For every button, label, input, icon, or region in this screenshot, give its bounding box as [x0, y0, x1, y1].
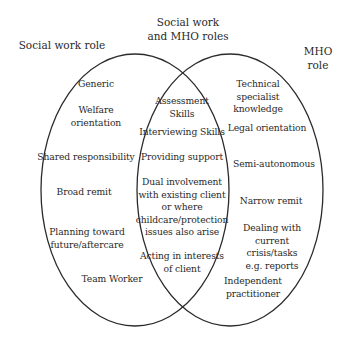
heading-overlap-roles: Social work and MHO roles	[147, 15, 228, 43]
heading-social-work-role: Social work role	[19, 38, 106, 52]
overlap-item-providing-support: Providing support	[141, 151, 223, 164]
overlap-item-interviewing-skills: Interviewing Skills	[139, 126, 225, 139]
left-item-team-worker: Team Worker	[82, 273, 143, 286]
overlap-item-dual-involvement: Dual involvement with existing client or…	[136, 176, 229, 239]
left-item-broad-remit: Broad remit	[56, 186, 111, 199]
overlap-item-assessment-skills: Assessment Skills	[155, 95, 209, 120]
right-item-narrow-remit: Narrow remit	[240, 195, 303, 208]
right-item-independent-practitioner: Independent practitioner	[224, 275, 282, 300]
right-item-dealing-with-crisis: Dealing with current crisis/tasks e.g. r…	[230, 222, 314, 272]
left-item-shared-responsibility: Shared responsibility	[37, 151, 134, 164]
overlap-item-acting-in-interests: Acting in interests of client	[140, 250, 224, 275]
left-item-generic: Generic	[78, 78, 114, 91]
left-item-planning-aftercare: Planning toward future/aftercare	[49, 226, 124, 251]
heading-mho-role: MHO role	[299, 44, 337, 72]
right-item-legal-orientation: Legal orientation	[228, 122, 307, 135]
right-item-technical-knowledge: Technical specialist knowledge	[233, 78, 283, 116]
left-item-welfare-orientation: Welfare orientation	[71, 104, 121, 129]
right-item-semi-autonomous: Semi-autonomous	[233, 158, 315, 171]
